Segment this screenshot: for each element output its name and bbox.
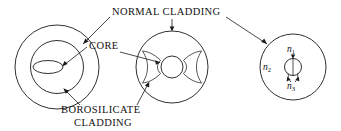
normal-cladding-label: NORMAL CLADDING	[112, 6, 221, 17]
index-n1-label: n1	[287, 44, 295, 55]
middle-outer-cladding-circle	[136, 31, 208, 103]
arrowhead-core-left	[62, 61, 68, 67]
left-fiber-cross-section	[15, 25, 99, 109]
borosilicate-cladding-label-line2: CLADDING	[74, 117, 132, 128]
fiber-cross-section-figure: NORMAL CLADDING CORE BOROSILICATE CLADDI…	[0, 0, 341, 131]
diagram-canvas: NORMAL CLADDING CORE BOROSILICATE CLADDI…	[0, 0, 341, 131]
middle-right-bowtie-lobe	[184, 51, 202, 83]
left-inner-cladding-circle	[31, 41, 84, 94]
core-label: CORE	[89, 40, 119, 51]
middle-fiber-cross-section	[136, 31, 208, 103]
index-n3-label: n3	[287, 81, 296, 92]
leader-normal-cladding-right	[226, 17, 267, 44]
left-outer-cladding-circle	[15, 25, 99, 109]
left-elliptical-core	[33, 61, 63, 74]
middle-core-circle	[161, 56, 183, 78]
leader-core-left	[64, 47, 87, 65]
arrowhead-normal-cladding-right	[261, 39, 267, 44]
borosilicate-cladding-label-line1: BOROSILICATE	[61, 104, 140, 115]
index-n2-label: n2	[263, 62, 271, 73]
middle-left-bowtie-lobe	[143, 51, 161, 83]
